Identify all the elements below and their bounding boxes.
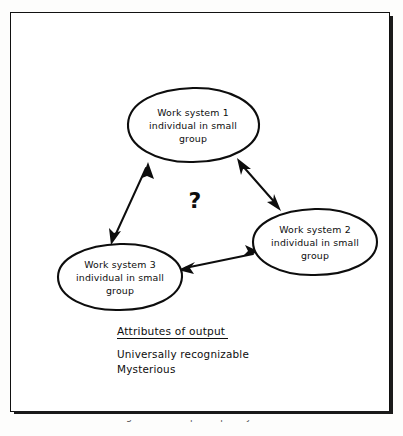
node-1-line-3: group <box>179 133 207 144</box>
node-2-line-2: individual in small <box>271 237 359 248</box>
frame-shadow-right <box>390 16 393 414</box>
connector-1-3 <box>109 162 154 245</box>
figure-page: work system 3 --> work system 2 --> work… <box>0 0 403 436</box>
node-3-line-2: individual in small <box>76 272 164 283</box>
node-3-line-3: group <box>106 285 134 296</box>
node-3-line-1: Work system 3 <box>84 259 156 270</box>
node-2-line-3: group <box>301 250 329 261</box>
node-1-line-1: Work system 1 <box>157 107 229 118</box>
connector-3-2 <box>178 245 260 274</box>
question-mark: ? <box>189 188 202 213</box>
node-2-line-1: Work system 2 <box>279 224 351 235</box>
attributes-item-1: Mysterious <box>117 363 176 375</box>
node-work-system-3[interactable]: Work system 3 individual in small group <box>58 244 182 310</box>
attributes-heading: Attributes of output <box>117 325 225 337</box>
figure-caption: Figure 7.1 The participatory model <box>0 420 403 422</box>
node-work-system-2[interactable]: Work system 2 individual in small group <box>253 209 377 275</box>
connector-1-2 <box>237 158 281 211</box>
attributes-block: Attributes of output Universally recogni… <box>117 325 249 375</box>
node-work-system-1[interactable]: Work system 1 individual in small group <box>128 88 259 162</box>
attributes-item-0: Universally recognizable <box>117 348 249 360</box>
figure-caption-strip: Figure 7.1 The participatory model <box>0 420 403 436</box>
node-1-line-2: individual in small <box>149 120 237 131</box>
arrowhead-down-node3 <box>109 228 121 245</box>
work-system-diagram: work system 3 --> work system 2 --> work… <box>10 12 390 412</box>
